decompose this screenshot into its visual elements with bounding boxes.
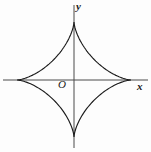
y-axis-label: y bbox=[76, 1, 81, 12]
astroid-figure: y x O bbox=[0, 0, 151, 152]
x-axis-label: x bbox=[137, 81, 143, 92]
origin-label: O bbox=[58, 79, 66, 90]
astroid-plot bbox=[0, 0, 151, 152]
